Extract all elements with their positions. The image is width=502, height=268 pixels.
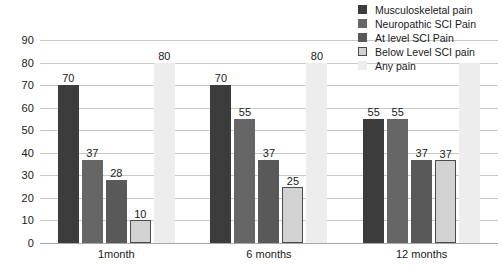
x-axis-category-label: 6 months xyxy=(193,248,346,260)
y-axis-tick-label: 50 xyxy=(0,125,34,136)
bar[interactable]: 37 xyxy=(258,160,279,243)
y-axis-tick-label: 10 xyxy=(0,215,34,226)
legend-item[interactable]: Any pain xyxy=(358,59,502,72)
bar-value-label: 10 xyxy=(134,208,146,220)
legend-item-label: Below Level SCI pain xyxy=(375,46,475,58)
y-axis-tick-label: 60 xyxy=(0,102,34,113)
y-axis-tick-label: 0 xyxy=(0,238,34,249)
bar[interactable]: 37 xyxy=(82,160,103,243)
bar-value-label: 80 xyxy=(311,50,323,62)
bar[interactable]: 28 xyxy=(106,180,127,243)
bar-value-label: 70 xyxy=(62,72,74,84)
legend-item[interactable]: Musculoskeletal pain xyxy=(358,3,502,16)
bar-group: 7037281080 xyxy=(40,40,193,245)
legend-item[interactable]: Below Level SCI pain xyxy=(358,45,502,58)
legend-item-label: At level SCI Pain xyxy=(375,32,454,44)
bar-chart: 0102030405060708090 70372810807055372580… xyxy=(0,0,502,268)
bar[interactable]: 55 xyxy=(234,119,255,243)
x-axis-category-label: 12 months xyxy=(345,248,498,260)
legend: Musculoskeletal painNeuropathic SCI Pain… xyxy=(358,3,502,73)
legend-color-swatch xyxy=(358,47,367,56)
y-axis-tick-label: 40 xyxy=(0,147,34,158)
bar[interactable]: 37 xyxy=(411,160,432,243)
bar[interactable]: 37 xyxy=(435,160,456,243)
bar[interactable]: 10 xyxy=(130,220,151,243)
bar-value-label: 28 xyxy=(110,167,122,179)
y-axis-labels: 0102030405060708090 xyxy=(0,40,34,245)
bar-value-label: 37 xyxy=(416,147,428,159)
y-axis-tick-label: 80 xyxy=(0,57,34,68)
bar-value-label: 55 xyxy=(392,106,404,118)
bar-value-label: 70 xyxy=(215,72,227,84)
legend-color-swatch xyxy=(358,19,367,28)
legend-item[interactable]: Neuropathic SCI Pain xyxy=(358,17,502,30)
legend-item-label: Any pain xyxy=(375,60,416,72)
y-axis-tick-label: 30 xyxy=(0,170,34,181)
y-axis-tick-label: 90 xyxy=(0,35,34,46)
y-axis-tick-label: 20 xyxy=(0,192,34,203)
bar[interactable]: 70 xyxy=(58,85,79,243)
bar-value-label: 37 xyxy=(86,147,98,159)
bar[interactable]: 80 xyxy=(306,63,327,243)
y-axis-tick-label: 70 xyxy=(0,80,34,91)
legend-color-swatch xyxy=(358,5,367,14)
x-axis-category-label: 1month xyxy=(40,248,193,260)
bar[interactable]: 25 xyxy=(282,187,303,243)
legend-item-label: Musculoskeletal pain xyxy=(375,4,472,16)
legend-item[interactable]: At level SCI Pain xyxy=(358,31,502,44)
bar[interactable] xyxy=(459,63,480,243)
bar-value-label: 80 xyxy=(158,50,170,62)
legend-color-swatch xyxy=(358,33,367,42)
legend-item-label: Neuropathic SCI Pain xyxy=(375,18,476,30)
bar-value-label: 55 xyxy=(368,106,380,118)
bar[interactable]: 70 xyxy=(210,85,231,243)
bar-value-label: 25 xyxy=(287,175,299,187)
bar-value-label: 37 xyxy=(263,147,275,159)
bar-value-label: 37 xyxy=(440,148,452,160)
bar[interactable]: 55 xyxy=(387,119,408,243)
bar-value-label: 55 xyxy=(239,106,251,118)
bar[interactable]: 80 xyxy=(154,63,175,243)
legend-color-swatch xyxy=(358,61,367,70)
bar[interactable]: 55 xyxy=(363,119,384,243)
bar-group: 7055372580 xyxy=(193,40,346,245)
